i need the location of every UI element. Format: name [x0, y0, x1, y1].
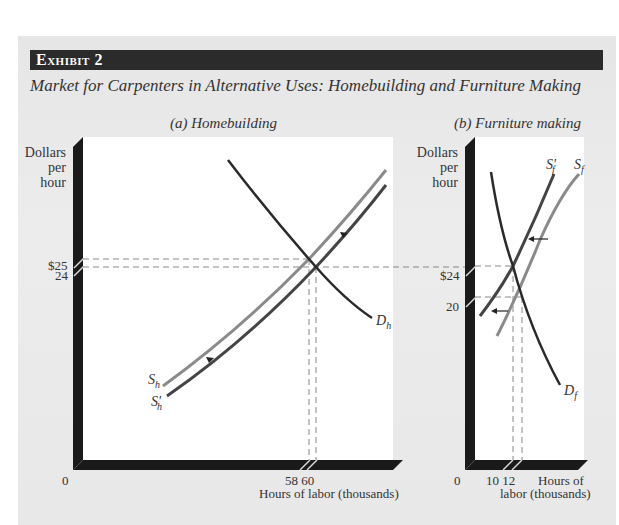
- panel-a-y-axis-bar: [73, 137, 83, 470]
- charts-svg: Sh S'h Dh S'f Sf Df: [0, 0, 619, 525]
- panel-a-plot: Sh S'h Dh: [73, 137, 475, 470]
- panel-b-origin: 0: [454, 473, 461, 489]
- panel-a-ytick-24: 24: [55, 268, 68, 284]
- panel-b-x-axis-bar: [465, 460, 588, 470]
- panel-a-origin: 0: [62, 473, 69, 489]
- panel-a-x-axis-bar: [73, 460, 403, 470]
- panel-b-plot: S'f Sf Df: [465, 137, 588, 470]
- panel-a-xlabel: Hours of labor (thousands): [259, 486, 399, 502]
- panel-b-ytick-24: $24: [440, 268, 460, 284]
- panel-b-xlabel-line2: labor (thousands): [500, 486, 591, 502]
- panel-b-ytick-20: 20: [446, 299, 459, 315]
